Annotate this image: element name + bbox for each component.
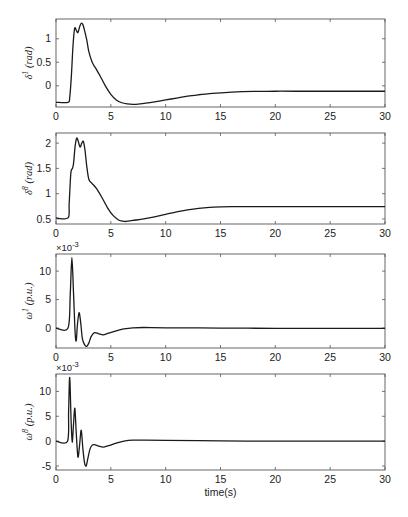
x-tick-label: 0 <box>53 110 59 122</box>
series-line-omega8 <box>56 377 385 466</box>
y-tick-label: 0 <box>45 79 51 91</box>
chart-svg: 05101520253000.51δ1 (rad)0510152025300.5… <box>0 0 408 517</box>
x-tick-label: 20 <box>269 473 281 485</box>
subplot-1: 05101520253000.51δ1 (rad) <box>21 19 391 122</box>
subplot-4: 051015202530-50510ω8 (p.u.)×10-3time(s) <box>21 360 391 498</box>
x-tick-label: 5 <box>108 110 114 122</box>
x-tick-label: 30 <box>379 473 391 485</box>
x-tick-label: 10 <box>160 227 172 239</box>
axis-multiplier: ×10-3 <box>56 240 79 253</box>
x-tick-label: 15 <box>215 351 227 363</box>
x-tick-label: 20 <box>269 110 281 122</box>
x-tick-label: 15 <box>215 473 227 485</box>
subplot-2: 0510152025300.511.52δ8 (rad) <box>21 133 391 239</box>
y-axis-label: δ1 (rad) <box>21 46 35 80</box>
x-tick-label: 10 <box>160 351 172 363</box>
x-tick-label: 0 <box>53 227 59 239</box>
y-tick-label: 1.5 <box>36 162 51 174</box>
x-tick-label: 25 <box>324 473 336 485</box>
y-tick-label: -5 <box>42 460 51 472</box>
y-tick-label: 0.5 <box>36 56 51 68</box>
x-tick-label: 10 <box>160 110 172 122</box>
y-axis-label: ω8 (p.u.) <box>21 403 35 440</box>
y-tick-label: 2 <box>45 137 51 149</box>
y-tick-label: 5 <box>45 293 51 305</box>
axes-frame <box>56 19 385 107</box>
x-axis-label: time(s) <box>204 486 236 498</box>
y-axis-label: ω1 (p.u.) <box>21 282 35 319</box>
axis-multiplier: ×10-3 <box>56 360 79 373</box>
subplot-3: 0510152025300510ω1 (p.u.)×10-3 <box>21 240 391 363</box>
y-tick-label: 0 <box>45 435 51 447</box>
series-line-delta1 <box>56 23 385 104</box>
x-tick-label: 30 <box>379 110 391 122</box>
series-line-omega1 <box>56 257 385 346</box>
y-tick-label: 10 <box>39 385 51 397</box>
x-tick-label: 5 <box>108 227 114 239</box>
y-tick-label: 0 <box>45 322 51 334</box>
axes-frame <box>56 133 385 224</box>
y-tick-label: 10 <box>39 265 51 277</box>
y-tick-label: 5 <box>45 410 51 422</box>
y-tick-label: 0.5 <box>36 213 51 225</box>
x-tick-label: 20 <box>269 227 281 239</box>
x-tick-label: 5 <box>108 351 114 363</box>
x-tick-label: 0 <box>53 473 59 485</box>
x-tick-label: 5 <box>108 473 114 485</box>
x-tick-label: 15 <box>215 227 227 239</box>
x-tick-label: 25 <box>324 351 336 363</box>
x-tick-label: 10 <box>160 473 172 485</box>
y-tick-label: 1 <box>45 187 51 199</box>
x-tick-label: 20 <box>269 351 281 363</box>
figure: 05101520253000.51δ1 (rad)0510152025300.5… <box>0 0 408 517</box>
x-tick-label: 30 <box>379 227 391 239</box>
x-tick-label: 15 <box>215 110 227 122</box>
x-tick-label: 25 <box>324 227 336 239</box>
y-axis-label: δ8 (rad) <box>21 161 35 195</box>
y-tick-label: 1 <box>45 32 51 44</box>
axes-frame <box>56 374 385 470</box>
x-tick-label: 30 <box>379 351 391 363</box>
series-line-delta8 <box>56 138 385 221</box>
x-tick-label: 25 <box>324 110 336 122</box>
